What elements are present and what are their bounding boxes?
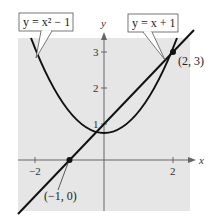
y-tick-label: 2 [93,82,99,94]
point-label-b: (2, 3) [178,54,204,68]
chart-canvas: x y −2 2 1 2 3 (−1, 0) (2, 3) y = x² − 1… [0,0,220,221]
callout-line-text: y = x + 1 [132,16,176,30]
point-label-a: (−1, 0) [44,189,77,203]
y-axis-arrow-icon [101,32,107,40]
intersection-point-a [67,157,73,163]
y-tick-label: 1 [93,118,99,130]
x-tick-label: 2 [170,165,176,177]
callout-parabola-text: y = x² − 1 [23,15,70,29]
intersection-point-b [170,49,176,55]
x-axis-label: x [198,154,204,166]
y-tick-label: 3 [93,46,99,58]
x-tick-label: −2 [29,165,41,177]
y-axis-label: y [100,17,106,29]
x-axis-arrow-icon [188,157,196,163]
